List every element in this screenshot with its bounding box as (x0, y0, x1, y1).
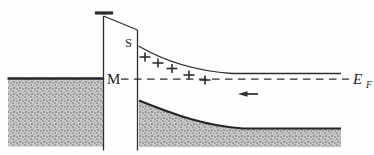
electron-arrow-icon (238, 91, 258, 97)
band-diagram-figure: M S E F (0, 0, 374, 155)
conduction-band-curve (139, 46, 342, 74)
metal-label: M (107, 71, 120, 87)
semiconductor-valence-region (139, 101, 341, 148)
barrier-top-edge (104, 16, 138, 30)
fermi-level-label: E F (352, 71, 372, 90)
fermi-subscript: F (365, 80, 372, 90)
band-diagram-svg: M S E F (0, 0, 374, 155)
semiconductor-surface-label: S (125, 36, 132, 50)
electron-arrow-head (238, 91, 248, 97)
fermi-symbol: E (352, 71, 362, 87)
metal-filled-states-region (8, 79, 103, 147)
